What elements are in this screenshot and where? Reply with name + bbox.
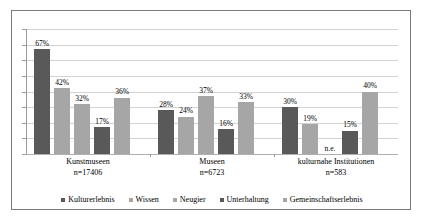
bar[interactable]: [34, 49, 50, 154]
legend-label: Kulturerlebnis: [68, 195, 114, 204]
x-axis-group-separator: [274, 154, 275, 157]
legend-swatch-icon: [283, 198, 287, 202]
legend-item[interactable]: Gemeinschaftserlebnis: [283, 195, 363, 204]
legend-swatch-icon: [61, 198, 65, 202]
bar[interactable]: [238, 102, 254, 154]
plot-area: 67%42%32%17%36%28%24%37%16%33%30%19%n.e.…: [26, 29, 398, 154]
legend-label: Unterhaltung: [227, 195, 269, 204]
bar-group-bars: 67%42%32%17%36%: [32, 29, 132, 154]
bar-group-bars: 28%24%37%16%33%: [156, 29, 256, 154]
bar-group: 28%24%37%16%33%: [156, 29, 256, 154]
bar-value-label: 33%: [226, 92, 266, 101]
category-name: kulturnahe Institutionen: [274, 157, 398, 168]
bar-slot: 33%: [236, 29, 256, 154]
bar[interactable]: [158, 110, 174, 154]
bar-slot: 30%: [280, 29, 300, 154]
bar[interactable]: [74, 104, 90, 154]
y-axis-tick: [22, 76, 26, 77]
category-sample-size: n=583: [274, 168, 398, 179]
legend-label: Neugier: [180, 195, 206, 204]
y-axis-tick: [22, 123, 26, 124]
axis-baseline: [26, 154, 398, 155]
bar-slot: 37%: [196, 29, 216, 154]
y-axis-tick: [22, 29, 26, 30]
x-axis-group-separator: [150, 154, 151, 157]
y-axis-tick: [22, 60, 26, 61]
y-axis-tick: [22, 154, 26, 155]
bar-group: 30%19%n.e.15%40%: [280, 29, 380, 154]
legend-swatch-icon: [173, 198, 177, 202]
bar-slot: n.e.: [320, 29, 340, 154]
y-axis-tick: [22, 107, 26, 108]
bar-value-label: 40%: [350, 81, 390, 90]
bar[interactable]: [342, 131, 358, 154]
x-axis-category-labels: Kunstmuseenn=17406Museenn=6723kulturnahe…: [26, 157, 398, 187]
bar[interactable]: [178, 117, 194, 155]
legend-swatch-icon: [129, 198, 133, 202]
chart-legend: KulturerlebnisWissenNeugierUnterhaltungG…: [26, 195, 398, 204]
bar-slot: 15%: [340, 29, 360, 154]
legend-item[interactable]: Wissen: [129, 195, 159, 204]
bar-group-bars: 30%19%n.e.15%40%: [280, 29, 380, 154]
x-axis-category: kulturnahe Institutionenn=583: [274, 157, 398, 178]
category-sample-size: n=17406: [26, 168, 150, 179]
bar-slot: 19%: [300, 29, 320, 154]
bar-slot: 67%: [32, 29, 52, 154]
legend-item[interactable]: Unterhaltung: [220, 195, 269, 204]
legend-item[interactable]: Neugier: [173, 195, 206, 204]
bar-group: 67%42%32%17%36%: [32, 29, 132, 154]
category-name: Museen: [150, 157, 274, 168]
legend-item[interactable]: Kulturerlebnis: [61, 195, 114, 204]
bar-slot: 42%: [52, 29, 72, 154]
bar-slot: 40%: [360, 29, 380, 154]
category-sample-size: n=6723: [150, 168, 274, 179]
y-axis-tick: [22, 138, 26, 139]
bar[interactable]: [94, 127, 110, 154]
x-axis-category: Museenn=6723: [150, 157, 274, 178]
y-axis-tick: [22, 92, 26, 93]
legend-label: Wissen: [136, 195, 159, 204]
bar-slot: 28%: [156, 29, 176, 154]
bar[interactable]: [218, 129, 234, 154]
bar-slot: 32%: [72, 29, 92, 154]
category-name: Kunstmuseen: [26, 157, 150, 168]
bar[interactable]: [114, 98, 130, 154]
legend-label: Gemeinschaftserlebnis: [290, 195, 363, 204]
bar-value-label: 36%: [102, 87, 142, 96]
x-axis-category: Kunstmuseenn=17406: [26, 157, 150, 178]
chart-frame: 67%42%32%17%36%28%24%37%16%33%30%19%n.e.…: [11, 10, 411, 210]
legend-swatch-icon: [220, 198, 224, 202]
bar-slot: 36%: [112, 29, 132, 154]
bar[interactable]: [362, 92, 378, 155]
